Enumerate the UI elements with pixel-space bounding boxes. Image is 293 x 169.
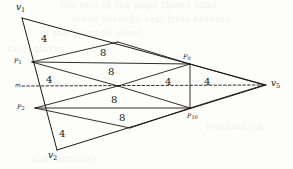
vertex-label-v2: v2 xyxy=(48,150,57,162)
edge-P1-P9 xyxy=(32,62,190,64)
vertex-label-v1-subscript: 1 xyxy=(21,6,25,14)
edge-weight-lower-band: 8 xyxy=(111,94,117,105)
diagram-linework xyxy=(0,0,293,169)
edge-weight-left-upper: 4 xyxy=(46,74,52,85)
edge-P1-center xyxy=(32,62,118,86)
edge-apexl-P10 xyxy=(130,108,190,128)
edge-P10-v5 xyxy=(190,85,264,108)
dashed-midline xyxy=(22,85,264,86)
vertex-label-v5-subscript: 5 xyxy=(276,82,280,90)
edge-weight-upper-band: 8 xyxy=(108,66,114,77)
edge-center-P9 xyxy=(118,64,190,86)
vertex-label-P2: P2 xyxy=(17,103,25,111)
vertex-label-P9: P9 xyxy=(183,53,191,61)
edge-apexu-P9 xyxy=(118,42,190,64)
midline-label-m: m xyxy=(15,81,21,88)
vertex-label-P9-subscript: 9 xyxy=(187,55,190,61)
vertex-label-P1-subscript: 1 xyxy=(18,59,21,65)
figure-canvas: the rest of the page shows faint bleed t… xyxy=(0,0,293,169)
edge-weight-top-left: 4 xyxy=(41,33,47,44)
edge-weight-right-upper: 4 xyxy=(165,76,171,87)
vertex-label-v5: v5 xyxy=(271,78,280,90)
edge-P2-apex-l xyxy=(35,108,130,128)
edge-weight-bottom-mid: 8 xyxy=(119,112,125,123)
vertex-label-P2-subscript: 2 xyxy=(21,105,24,111)
vertex-label-P10: P10 xyxy=(187,112,198,120)
edge-weight-bottom-left: 4 xyxy=(59,128,65,139)
edge-P2-center xyxy=(35,86,118,108)
vertex-label-P10-subscript: 10 xyxy=(191,114,197,120)
edge-weight-right-outer: 4 xyxy=(204,76,210,87)
edge-P9-v5 xyxy=(190,64,264,85)
vertex-label-P1: P1 xyxy=(14,57,22,65)
edge-weight-top-mid: 8 xyxy=(100,47,106,58)
vertex-label-v1: v1 xyxy=(16,2,25,14)
vertex-label-v2-subscript: 2 xyxy=(53,154,57,162)
edge-center-P10 xyxy=(118,86,190,108)
